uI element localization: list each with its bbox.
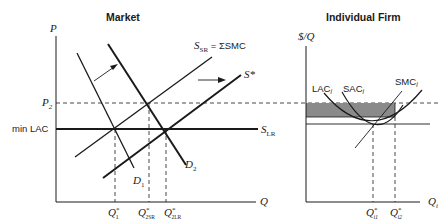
p2-label: P2	[41, 96, 53, 111]
qi1-label: Q*i1	[366, 206, 378, 220]
lac-label: LACi	[312, 83, 332, 95]
market-y-axis-label: P	[49, 22, 57, 34]
q2lr-label: Q*2LR	[164, 206, 182, 220]
qi2-label: Q*i2	[390, 206, 402, 220]
firm-y-axis-label: $/Q	[298, 30, 315, 42]
sac-label: SACi	[343, 83, 365, 95]
s-lr-label: SLR	[261, 123, 276, 138]
d2-label: D2	[184, 158, 197, 173]
market-x-axis-label: Q	[260, 195, 268, 207]
firm-title: Individual Firm	[326, 11, 401, 23]
supply-shift-arrow	[198, 77, 226, 83]
q2sr-label: Q*2SR	[138, 206, 155, 220]
q1-label: Q*1	[108, 206, 120, 220]
s-sr-label: SSR = ΣSMC	[194, 39, 246, 54]
s-star-curve	[103, 75, 241, 178]
demand-shift-arrow	[94, 64, 118, 81]
min-lac-label: min LAC	[12, 123, 49, 134]
s-sr-curve	[75, 57, 212, 157]
market-firm-diagram: Market P Q P2 min LAC SLR D1 D2 SSR = ΣS…	[0, 0, 445, 223]
s-star-label: S*	[244, 68, 256, 80]
market-title: Market	[106, 11, 140, 23]
smc-label: SMCi	[395, 76, 418, 88]
firm-x-axis-label: Qi	[428, 195, 438, 210]
d1-label: D1	[132, 174, 145, 189]
